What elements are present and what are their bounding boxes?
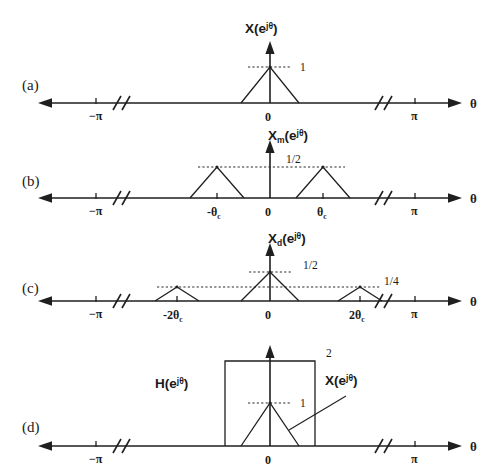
panel-c-theta-label: θ (470, 294, 477, 309)
panel-c-peak-marker-right (359, 286, 362, 289)
panel-c-left-arrowhead (38, 296, 52, 306)
panel-b-left-arrowhead (38, 193, 52, 203)
panel-d-tick-label-neg-pi: −π (89, 452, 103, 466)
panel-d-amplitude-label-2: 2 (326, 347, 332, 359)
panel-c-amplitude-label-quarter: 1/4 (384, 275, 399, 287)
panel-c-tick-label-origin: 0 (265, 308, 271, 322)
panel-d-peak-marker (269, 402, 272, 405)
panel-b-theta-label: θ (470, 191, 477, 206)
panel-d-tick-label-pos-pi: π (411, 452, 418, 466)
panel-a-amplitude-label-1: 1 (300, 61, 306, 73)
panel-d-amplitude-label-1: 1 (300, 397, 306, 409)
panel-b-tick-label-origin: 0 (265, 205, 271, 219)
panel-c-right-arrowhead (448, 296, 462, 306)
panel-a-axis-arrowhead (265, 41, 274, 54)
panel-d-left-arrowhead (38, 441, 52, 451)
panel-b-tick-label-pos-theta-c: θc (317, 205, 327, 221)
figure-root: (a) X(ejθ) 1 −π 0 π θ (0, 0, 487, 476)
panel-d-theta-label: θ (470, 439, 477, 454)
panel-c-peak-marker-center (269, 271, 272, 274)
panel-c: (c) Xd(ejθ) 1/2 1/4 −π -2θc 0 2θc π θ (22, 231, 477, 324)
panel-b-tick-label-neg-theta-c: -θc (207, 205, 221, 221)
panel-c-tick-label-pos-pi: π (411, 307, 418, 321)
panel-b-peak-marker-left (216, 166, 219, 169)
panel-c-amplitude-label-half: 1/2 (303, 259, 318, 271)
panel-a-signal-label: X(ejθ) (245, 21, 278, 37)
panel-c-peak-marker-left (176, 286, 179, 289)
panel-b-right-arrowhead (448, 193, 462, 203)
panel-b-amplitude-label-half: 1/2 (286, 153, 301, 165)
panel-d-right-arrowhead (448, 441, 462, 451)
panel-a-tick-label-neg-pi: −π (89, 109, 103, 123)
panel-d-axis-arrowhead (265, 345, 274, 358)
panel-b-peak-marker-right (322, 166, 325, 169)
panel-c-tick-label-neg-pi: −π (89, 307, 103, 321)
panel-a-left-arrowhead (38, 98, 52, 108)
panel-b-tick-label-pos-pi: π (411, 204, 418, 218)
panel-b-letter: (b) (22, 173, 40, 190)
panel-d-signal-label: X(ejθ) (325, 373, 358, 389)
panel-c-letter: (c) (22, 280, 39, 297)
panel-a-tick-label-pos-pi: π (411, 109, 418, 123)
panel-a-right-arrowhead (448, 98, 462, 108)
panel-b: (b) Xm(ejθ) 1/2 −π -θc 0 θc π θ (22, 128, 477, 221)
panel-c-tick-label-neg-2theta-c: -2θc (163, 308, 183, 324)
panel-c-signal-label: Xd(ejθ) (268, 231, 306, 249)
panel-d-signal-leader-line (289, 396, 346, 430)
panel-c-tick-label-pos-2theta-c: 2θc (349, 308, 365, 324)
panel-d-letter: (d) (22, 419, 40, 436)
panel-d-filter-label: H(ejθ) (155, 376, 188, 392)
spectrum-diagram: (a) X(ejθ) 1 −π 0 π θ (0, 0, 487, 476)
panel-a-letter: (a) (22, 77, 39, 94)
panel-b-tick-label-neg-pi: −π (89, 204, 103, 218)
panel-d: (d) H(ejθ) X(ejθ) 2 1 −π 0 π θ (22, 345, 477, 467)
panel-a: (a) X(ejθ) 1 −π 0 π θ (22, 21, 477, 125)
panel-d-tick-label-origin: 0 (265, 453, 271, 467)
panel-a-theta-label: θ (470, 96, 477, 111)
panel-a-peak-marker (269, 66, 272, 69)
panel-a-tick-label-origin: 0 (265, 110, 271, 124)
panel-b-signal-label: Xm(ejθ) (268, 128, 308, 146)
